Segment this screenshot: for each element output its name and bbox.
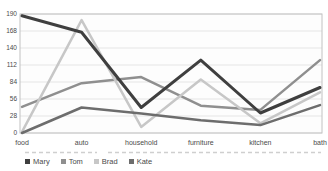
legend-swatch-tom: [61, 159, 66, 164]
legend-label: Brad: [102, 158, 118, 166]
y-tick-label: 28: [10, 112, 18, 119]
y-tick-label: 0: [13, 129, 17, 136]
x-axis-label: auto: [75, 139, 89, 146]
legend-label: Mary: [33, 158, 50, 166]
y-tick-label: 112: [7, 61, 18, 68]
y-tick-label: 168: [6, 27, 17, 34]
legend-item-mary: Mary: [25, 158, 50, 166]
x-axis-label: food: [15, 139, 29, 146]
legend-swatch-mary: [25, 159, 30, 164]
legend-swatch-kate: [129, 159, 134, 164]
y-tick-label: 140: [6, 44, 17, 51]
legend-item-tom: Tom: [61, 158, 83, 166]
legend-item-brad: Brad: [94, 158, 118, 166]
x-axis-label: kitchen: [249, 139, 271, 146]
y-tick-label: 84: [10, 78, 18, 85]
legend-swatch-brad: [94, 159, 99, 164]
x-axis-label: furniture: [188, 139, 214, 146]
chart-plot-area: 0285684112140168190foodautohouseholdfurn…: [0, 0, 328, 156]
legend-label: Kate: [137, 158, 152, 166]
x-axis-label: bath: [313, 139, 327, 146]
x-axis-label: household: [125, 139, 157, 146]
y-tick-label: 56: [10, 95, 18, 102]
y-tick-label: 190: [6, 10, 17, 17]
legend-label: Tom: [69, 158, 83, 166]
line-chart: 0285684112140168190foodautohouseholdfurn…: [0, 0, 328, 171]
legend-item-kate: Kate: [129, 158, 152, 166]
chart-legend: MaryTomBradKate: [25, 158, 152, 166]
